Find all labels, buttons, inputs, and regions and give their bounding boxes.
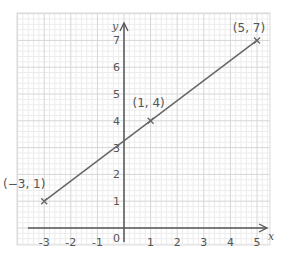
x-tick-label: 4 bbox=[227, 236, 234, 249]
y-axis-label: y bbox=[111, 20, 119, 33]
x-tick-label: -3 bbox=[39, 236, 50, 249]
x-tick-label: 3 bbox=[200, 236, 207, 249]
x-tick-label: 5 bbox=[254, 236, 261, 249]
y-tick-label: 1 bbox=[113, 195, 120, 208]
y-tick-label: 2 bbox=[113, 168, 120, 181]
y-tick-label: 4 bbox=[113, 115, 120, 128]
point-annotations: (−3, 1)(1, 4)(5, 7) bbox=[3, 21, 265, 191]
point-label: (1, 4) bbox=[132, 96, 164, 110]
x-tick-label: -1 bbox=[92, 236, 103, 249]
x-tick-label: 2 bbox=[174, 236, 181, 249]
y-tick-label: 6 bbox=[113, 61, 120, 74]
minor-grid bbox=[17, 13, 270, 245]
x-axis-label: x bbox=[268, 230, 275, 243]
coordinate-graph: xy -3-2-11234512345670 (−3, 1)(1, 4)(5, … bbox=[0, 0, 301, 270]
point-label: (−3, 1) bbox=[3, 177, 45, 191]
y-tick-label: 7 bbox=[113, 34, 120, 47]
origin-label: 0 bbox=[113, 232, 120, 245]
x-tick-label: 1 bbox=[147, 236, 154, 249]
y-tick-label: 5 bbox=[113, 88, 120, 101]
point-label: (5, 7) bbox=[233, 21, 265, 35]
x-tick-label: -2 bbox=[65, 236, 76, 249]
